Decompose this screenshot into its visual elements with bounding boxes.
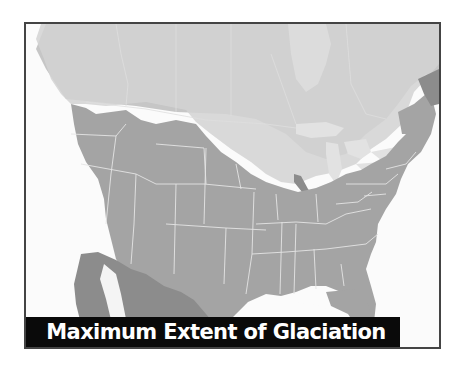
map-frame: Maximum Extent of Glaciation — [24, 22, 441, 349]
map-title-bar: Maximum Extent of Glaciation — [26, 317, 400, 347]
glaciation-map — [26, 24, 439, 347]
map-title: Maximum Extent of Glaciation — [40, 320, 385, 344]
